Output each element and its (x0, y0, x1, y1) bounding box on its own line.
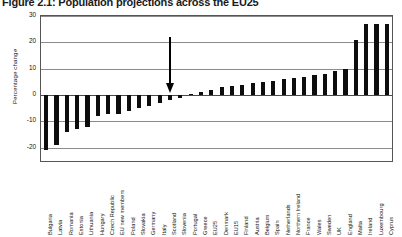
bar (127, 95, 131, 111)
y-tick-label: 0 (16, 91, 36, 97)
x-tick-label: Hungary (99, 214, 105, 236)
y-tick-label: 20 (16, 38, 36, 44)
bar (137, 95, 141, 108)
x-tick-label: EU new members (119, 190, 125, 235)
x-tick-label: Finland (243, 216, 249, 235)
bar (271, 81, 275, 96)
x-tick-label: Ireland (367, 218, 373, 235)
bar (333, 71, 337, 95)
bar-series (41, 16, 392, 161)
arrow-shaft (169, 37, 171, 84)
x-tick-label: Czech Republic (109, 195, 115, 235)
bar (96, 95, 100, 116)
plot-area (40, 15, 393, 162)
y-axis-ticks: 3020100-10-20 (14, 11, 36, 161)
x-tick-label: Luxembourg (378, 203, 384, 235)
x-tick-label: France (305, 217, 311, 235)
bar (251, 83, 255, 95)
x-tick-label: Latvia (57, 220, 63, 235)
bar (220, 87, 224, 95)
x-axis-labels: BulgariaLatviaRomaniaEstoniaLithuaniaHun… (40, 163, 393, 237)
x-tick-label: Cyprus (388, 217, 394, 235)
bar (85, 95, 89, 127)
figure-title: Figure 2.1: Population projections acros… (2, 0, 259, 9)
x-tick-label: England (347, 214, 353, 235)
y-tick-label: -10 (16, 117, 36, 123)
x-tick-label: Malta (357, 221, 363, 235)
x-tick-label: Poland (130, 217, 136, 235)
bar (44, 95, 48, 150)
x-tick-label: Belgium (264, 214, 270, 235)
bar (65, 95, 69, 132)
x-tick-label: EU15 (233, 221, 239, 235)
x-tick-label: Sweden (326, 214, 332, 235)
scotland-annotation-arrow-icon (166, 37, 175, 93)
bar (116, 95, 120, 113)
bar (302, 77, 306, 95)
bar (240, 85, 244, 96)
bar (106, 95, 110, 113)
x-tick-label: Austria (254, 217, 260, 235)
x-tick-label: Scotland (171, 213, 177, 235)
x-tick-label: Slovenia (181, 213, 187, 235)
y-tick-label: 10 (16, 65, 36, 71)
bar (343, 69, 347, 95)
x-tick-label: Italy (161, 224, 167, 235)
x-tick-label: Portugal (192, 214, 198, 235)
bar (292, 78, 296, 95)
bar (147, 95, 151, 106)
arrow-head (166, 83, 174, 93)
bar (261, 82, 265, 95)
x-tick-label: Greece (202, 216, 208, 235)
chart-container: Percentage change 3020100-10-20 Bulgaria… (0, 11, 402, 237)
x-tick-label: Germany (150, 212, 156, 235)
x-tick-label: Denmark (223, 212, 229, 235)
x-tick-label: Bulgaria (47, 214, 53, 235)
bar (178, 95, 182, 98)
x-tick-label: Estonia (78, 216, 84, 235)
x-tick-label: Lithuania (88, 212, 94, 235)
x-tick-label: Slovakia (140, 213, 146, 235)
bar (230, 86, 234, 95)
y-tick-label: 30 (16, 12, 36, 18)
bar (158, 95, 162, 103)
bar (75, 95, 79, 129)
x-tick-label: Netherlands (285, 204, 291, 235)
x-tick-label: Wales (316, 219, 322, 235)
bar (354, 40, 358, 95)
bar (209, 90, 213, 95)
x-tick-label: UK (336, 227, 342, 235)
bar (385, 24, 389, 95)
bar (168, 95, 172, 100)
y-tick-label: -20 (16, 144, 36, 150)
x-tick-label: Northern Ireland (295, 194, 301, 235)
x-tick-label: Romania (68, 212, 74, 235)
bar (312, 75, 316, 95)
bar (323, 74, 327, 95)
bar (199, 92, 203, 95)
bar (54, 95, 58, 145)
bar (374, 24, 378, 95)
bar (364, 24, 368, 95)
x-tick-label: EU25 (212, 221, 218, 235)
bar (282, 79, 286, 95)
bar (189, 94, 193, 95)
x-tick-label: Spain (274, 220, 280, 235)
